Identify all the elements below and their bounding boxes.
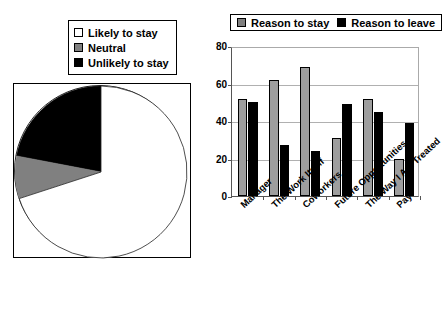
y-axis-tick-mark — [228, 197, 232, 198]
y-axis-tick-label: 0 — [205, 192, 227, 202]
pie-chart-legend: Likely to stay Neutral Unlikely to stay — [68, 20, 177, 75]
pie-chart-panel: Likely to stay Neutral Unlikely to stay — [0, 0, 205, 300]
legend-swatch-icon-reason-to-stay — [237, 18, 246, 27]
legend-swatch-icon-reason-to-leave — [337, 18, 346, 27]
x-axis-tick-mark — [326, 196, 327, 200]
pie-slices — [14, 85, 188, 259]
x-axis-tick-mark — [420, 196, 421, 200]
legend-swatch-icon-neutral — [74, 43, 83, 52]
legend-item-unlikely-to-stay: Unlikely to stay — [74, 55, 169, 70]
x-axis-tick-mark — [357, 196, 358, 200]
legend-item-neutral: Neutral — [74, 40, 169, 55]
y-axis-tick-label: 20 — [205, 155, 227, 165]
y-axis-tick-label: 80 — [205, 42, 227, 52]
legend-label-reason-to-stay: Reason to stay — [251, 17, 329, 29]
legend-label-likely-to-stay: Likely to stay — [88, 27, 158, 39]
legend-swatch-icon-likely-to-stay — [74, 28, 83, 37]
legend-swatch-icon-unlikely-to-stay — [74, 58, 83, 67]
bar-reason-to-leave — [342, 104, 352, 196]
legend-item-likely-to-stay: Likely to stay — [74, 25, 169, 40]
legend-item-reason-to-leave: Reason to leave — [337, 16, 435, 29]
legend-item-reason-to-stay: Reason to stay — [237, 16, 329, 29]
legend-label-reason-to-leave: Reason to leave — [351, 17, 435, 29]
bar-reason-to-leave — [248, 102, 258, 196]
bar-chart-plot-wrapper: 020406080 ManagerThe Work ItselfCoworker… — [205, 40, 424, 215]
pie-chart-plot-area — [13, 83, 191, 258]
bar-reason-to-stay — [332, 138, 342, 196]
bar-reason-to-stay — [238, 99, 248, 197]
bar-chart-legend: Reason to stay Reason to leave — [230, 14, 442, 31]
x-axis-tick-mark — [389, 196, 390, 200]
x-axis-tick-mark — [295, 196, 296, 200]
y-axis-tick-label: 40 — [205, 117, 227, 127]
bar-chart-panel: Reason to stay Reason to leave 020406080… — [205, 0, 424, 300]
legend-label-unlikely-to-stay: Unlikely to stay — [88, 57, 169, 69]
bar-series-container — [232, 48, 418, 196]
x-axis-tick-mark — [263, 196, 264, 200]
y-axis-tick-label: 60 — [205, 80, 227, 90]
legend-label-neutral: Neutral — [88, 42, 126, 54]
